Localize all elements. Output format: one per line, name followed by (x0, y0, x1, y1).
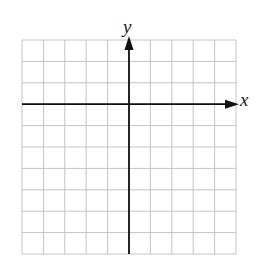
y-axis-label: y (123, 17, 131, 36)
x-axis-arrow-icon (225, 100, 239, 109)
coordinate-plane: y x (0, 0, 261, 266)
x-axis-label: x (240, 90, 248, 109)
y-axis-arrow-icon (125, 36, 134, 50)
axes (22, 36, 239, 254)
grid-svg (0, 0, 261, 266)
